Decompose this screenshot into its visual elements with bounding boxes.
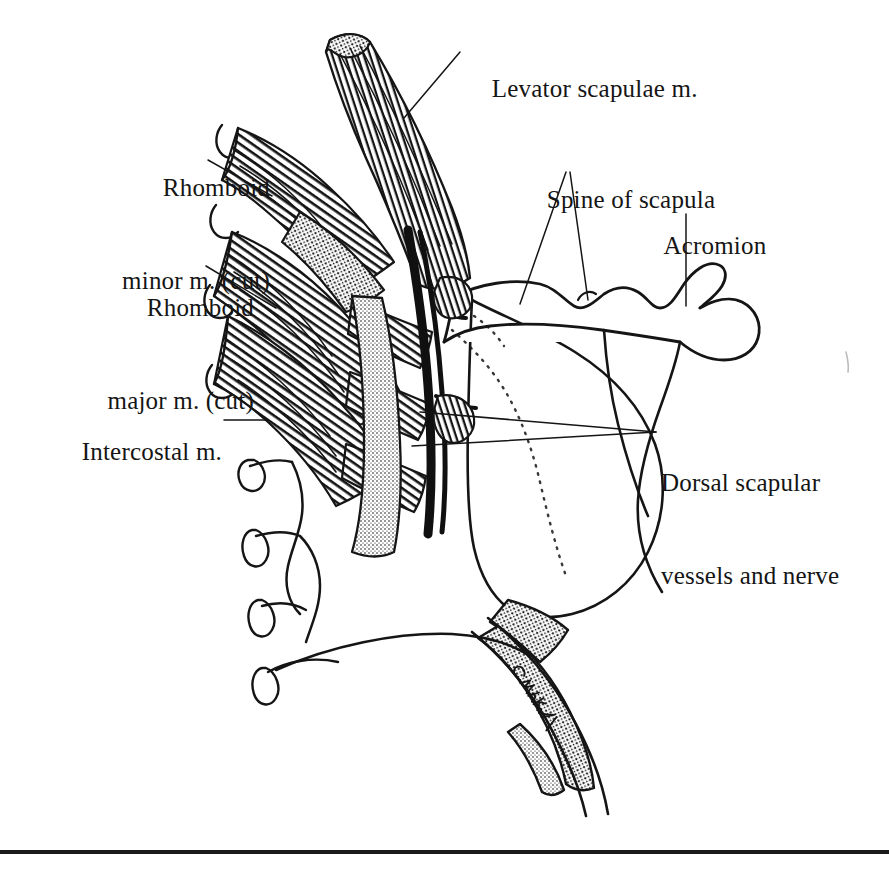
leader-levator-scapulae [404, 52, 460, 118]
label-dorsal-scapular: Dorsal scapular vessels and nerve [661, 405, 839, 653]
label-dorsal-scapular-line1: Dorsal scapular [661, 467, 839, 498]
stray-ink-mark [846, 352, 848, 372]
label-rhomboid-minor-line1: Rhomboid [40, 172, 270, 203]
label-acromion-text: Acromion [663, 232, 766, 259]
spinous-processes [238, 460, 338, 704]
label-acromion: Acromion [639, 199, 766, 292]
vertebral-column-contour [287, 462, 321, 642]
label-levator-scapulae-text: Levator scapulae m. [492, 75, 698, 102]
lower-muscle-tail [472, 600, 608, 816]
label-dorsal-scapular-line2: vessels and nerve [661, 560, 839, 591]
label-levator-scapulae: Levator scapulae m. [466, 42, 698, 135]
anatomy-figure-plate: Levator scapulae m. Rhomboid minor m. (c… [0, 0, 889, 871]
label-rhomboid-major-line1: Rhomboid [24, 292, 254, 323]
scapula-outline [468, 300, 663, 617]
lower-back-contour [276, 634, 530, 670]
label-intercostal: Intercostal m. [26, 405, 222, 498]
label-intercostal-text: Intercostal m. [82, 438, 222, 465]
